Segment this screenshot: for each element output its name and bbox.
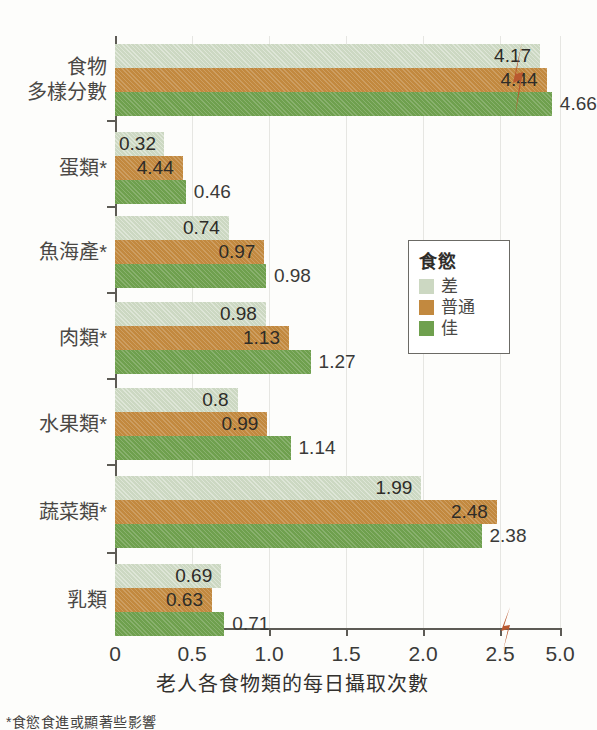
x-axis-title: 老人各食物類的每日攝取次數 [0, 668, 584, 697]
bar-group: 4.174.444.66 [115, 44, 560, 116]
bar-value-label: 1.13 [243, 326, 280, 350]
category-label-line: 蛋類* [0, 156, 107, 181]
x-tick-label: 1.0 [239, 642, 299, 666]
bar [115, 264, 266, 288]
bar-value-label: 4.66 [560, 92, 597, 116]
bar-group: 1.992.482.38 [115, 476, 560, 548]
bar-value-label: 0.46 [194, 180, 231, 204]
bar-value-label: 1.99 [375, 476, 412, 500]
bar-value-label: 2.38 [490, 524, 527, 548]
x-tick-label: 0.5 [162, 642, 222, 666]
category-label: 肉類* [0, 326, 107, 351]
category-label: 水果類* [0, 412, 107, 437]
x-tick-label: 5.0 [530, 642, 590, 666]
bar [115, 44, 540, 68]
bar-value-label: 4.44 [137, 156, 174, 180]
category-label: 魚海產* [0, 240, 107, 265]
bar-value-label: 0.69 [175, 564, 212, 588]
category-label-line: 蔬菜類* [0, 500, 107, 525]
category-label: 食物多樣分數 [0, 55, 107, 105]
x-tick-label: 1.5 [316, 642, 376, 666]
bar [115, 500, 497, 524]
bar-value-label: 2.48 [451, 500, 488, 524]
bar-value-label: 0.8 [202, 388, 228, 412]
category-label: 蔬菜類* [0, 500, 107, 525]
bar-value-label: 0.97 [218, 240, 255, 264]
bar-group: 0.324.440.46 [115, 132, 560, 204]
category-label-line: 肉類* [0, 326, 107, 351]
bar-group: 0.690.630.71 [115, 564, 560, 636]
legend-entry: 普通 [419, 299, 509, 316]
bar-value-label: 0.99 [221, 412, 258, 436]
bar [115, 524, 482, 548]
y-tick [107, 378, 115, 380]
category-label: 蛋類* [0, 156, 107, 181]
category-label-line: 食物 [0, 55, 107, 80]
bar [115, 350, 311, 374]
legend-label: 佳 [441, 320, 458, 337]
bar-value-label: 0.98 [220, 302, 257, 326]
bar-value-label: 0.63 [166, 588, 203, 612]
y-tick [107, 292, 115, 294]
x-tick [560, 628, 562, 636]
y-tick [107, 552, 115, 554]
bar [115, 612, 224, 636]
x-tick-label: 2.0 [393, 642, 453, 666]
bar-value-label: 0.32 [119, 132, 156, 156]
category-label-line: 多樣分數 [0, 80, 107, 105]
legend-label: 普通 [441, 299, 475, 316]
chart-legend: 食慾 差普通佳 [408, 240, 510, 354]
bar-value-label: 1.14 [299, 436, 336, 460]
bar-group: 0.80.991.14 [115, 388, 560, 460]
bar-value-label: 0.71 [232, 612, 269, 636]
category-label: 乳類 [0, 588, 107, 613]
bar [115, 68, 547, 92]
legend-entry: 佳 [419, 320, 509, 337]
bar-value-label: 1.27 [319, 350, 356, 374]
gridline [560, 36, 561, 628]
chart-footnote: *食慾食進或顯著些影響 [6, 711, 157, 730]
category-label-line: 乳類 [0, 588, 107, 613]
legend-swatch [419, 300, 434, 315]
bar [115, 92, 552, 116]
bar-value-label: 0.74 [183, 216, 220, 240]
legend-title: 食慾 [419, 247, 509, 273]
category-label-line: 水果類* [0, 412, 107, 437]
bar [115, 180, 186, 204]
axis-break-top-icon [507, 40, 533, 118]
y-tick [107, 464, 115, 466]
legend-swatch [419, 321, 434, 336]
legend-entries: 差普通佳 [419, 278, 509, 337]
category-label-line: 魚海產* [0, 240, 107, 265]
legend-entry: 差 [419, 278, 509, 295]
bar-value-label: 0.98 [274, 264, 311, 288]
x-tick-label: 0 [85, 642, 145, 666]
legend-label: 差 [441, 278, 458, 295]
bar [115, 436, 291, 460]
y-tick [107, 206, 115, 208]
y-tick [107, 120, 115, 122]
legend-swatch [419, 279, 434, 294]
x-tick-label: 2.5 [470, 642, 530, 666]
